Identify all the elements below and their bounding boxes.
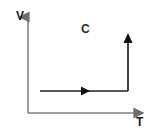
isothermal-rise-arrowhead bbox=[124, 33, 133, 43]
vertical-axis-label: V bbox=[16, 9, 24, 23]
process-label-c: C bbox=[81, 22, 90, 36]
diagram-canvas: V T C bbox=[0, 0, 152, 133]
isobaric-expansion-arrowhead bbox=[81, 87, 90, 96]
horizontal-axis-label: T bbox=[136, 115, 144, 129]
process-diagram-svg: V T C bbox=[0, 0, 152, 133]
